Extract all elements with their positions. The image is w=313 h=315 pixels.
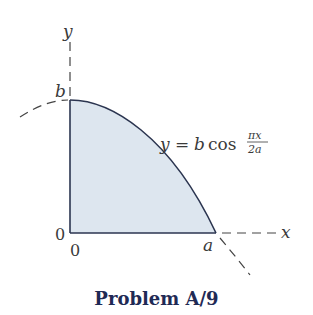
x-axis-label: x — [281, 222, 291, 242]
b-label: b — [55, 81, 66, 101]
y-axis-label: y — [62, 21, 73, 41]
equation-denominator: 2a — [247, 143, 262, 156]
origin-label-below: 0 — [70, 241, 80, 260]
curve-extension-right — [220, 238, 250, 275]
a-label: a — [203, 235, 213, 255]
shaded-area — [70, 100, 216, 233]
problem-title: Problem A/9 — [0, 288, 313, 309]
equation-equals: = — [175, 134, 189, 154]
equation-coef: b — [194, 134, 205, 154]
equation-func: cos — [208, 134, 236, 154]
diagram-canvas: y b x a 0 0 y = b cos πx 2a — [0, 0, 313, 315]
equation: y = b cos πx 2a — [159, 129, 268, 156]
origin-label-left: 0 — [55, 225, 65, 244]
equation-lhs: y — [159, 134, 170, 154]
equation-numerator: πx — [247, 129, 262, 142]
curve-extension-left — [20, 100, 68, 117]
